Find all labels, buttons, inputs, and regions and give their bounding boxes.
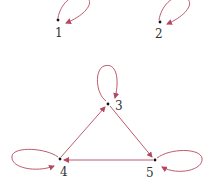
graph-diagram: 1 2 3 4 5 [0, 0, 210, 183]
node-label-3: 3 [115, 99, 123, 113]
node-label-4: 4 [60, 165, 68, 179]
node-label-2: 2 [155, 27, 163, 41]
self-loop-4 [12, 149, 58, 169]
self-loop-3 [97, 65, 117, 101]
node-1 [57, 19, 60, 22]
node-5 [154, 159, 157, 162]
node-3 [107, 103, 110, 106]
self-loop-5 [157, 151, 202, 172]
edge-4-to-3 [61, 107, 105, 157]
node-label-5: 5 [146, 166, 154, 180]
self-loop-1 [58, 0, 90, 23]
self-loop-2 [159, 0, 190, 24]
graph-svg: 1 2 3 4 5 [0, 0, 210, 183]
edge-3-to-5 [110, 106, 152, 157]
node-label-1: 1 [55, 26, 63, 40]
node-4 [59, 158, 62, 161]
node-2 [159, 21, 162, 24]
